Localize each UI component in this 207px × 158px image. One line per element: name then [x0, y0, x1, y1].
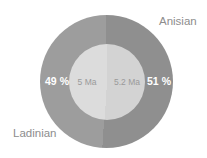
- percent-label-anisian: 51 %: [144, 76, 174, 87]
- donut-chart-canvas: 49 % 51 % 5 Ma 5.2 Ma Anisian Ladinian: [0, 0, 207, 158]
- percent-label-ladinian: 49 %: [42, 76, 72, 87]
- slice-label-ladinian: Ladinian: [13, 128, 56, 140]
- duration-label-ladinian: 5 Ma: [72, 78, 102, 87]
- duration-label-anisian: 5.2 Ma: [111, 78, 143, 87]
- slice-label-anisian: Anisian: [159, 16, 197, 28]
